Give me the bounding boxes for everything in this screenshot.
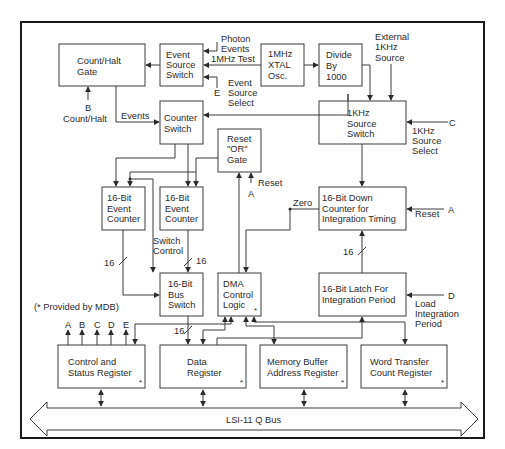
- counter-switch-block: Counter Switch: [160, 101, 203, 144]
- svg-text:Word Transfer: Word Transfer: [370, 357, 429, 367]
- svg-text:Switch: Switch: [166, 70, 193, 80]
- svg-text:Zero: Zero: [293, 198, 312, 208]
- svg-text:Osc.: Osc.: [268, 71, 287, 81]
- lsi-11-q-bus: LSI-11 Q Bus: [30, 402, 478, 436]
- svg-text:B: B: [79, 320, 85, 330]
- svg-text:Event: Event: [107, 204, 131, 214]
- control-status-register-block: Control and Status Register *: [58, 345, 145, 388]
- svg-text:Switch: Switch: [164, 124, 191, 134]
- data-register-block: Data Register *: [160, 345, 246, 388]
- svg-text:16: 16: [196, 256, 206, 266]
- svg-text:A: A: [248, 189, 255, 199]
- svg-text:LSI-11 Q Bus: LSI-11 Q Bus: [226, 415, 281, 425]
- svg-text:Integration Period: Integration Period: [322, 295, 395, 305]
- svg-text:Switch: Switch: [168, 300, 195, 310]
- svg-text:Data: Data: [187, 357, 207, 367]
- svg-text:External: External: [375, 32, 409, 42]
- svg-text:Counter: Counter: [107, 214, 140, 224]
- xtal-oscillator-block: 1MHz XTAL Osc.: [261, 44, 304, 86]
- svg-text:1KHz: 1KHz: [412, 126, 435, 136]
- bus-switch-block: 16-Bit Bus Switch: [160, 273, 203, 316]
- count-halt-gate-block: Count/Halt Gate: [59, 44, 145, 86]
- svg-text:16: 16: [104, 258, 114, 268]
- svg-text:Events: Events: [221, 44, 250, 54]
- event-source-switch-block: Event Source Switch: [160, 44, 203, 86]
- word-transfer-count-register-block: Word Transfer Count Register *: [361, 345, 447, 388]
- svg-text:Period: Period: [415, 319, 442, 329]
- svg-text:1KHz: 1KHz: [375, 42, 398, 52]
- svg-text:*: *: [441, 378, 444, 387]
- svg-text:Count/Halt: Count/Halt: [77, 56, 121, 66]
- svg-text:Select: Select: [228, 98, 254, 108]
- svg-text:E: E: [214, 88, 220, 98]
- event-counter-1-block: 16-Bit Event Counter: [102, 187, 145, 230]
- svg-text:Source: Source: [228, 88, 257, 98]
- svg-text:D: D: [448, 291, 455, 301]
- dma-control-logic-block: DMA Control Logic *: [218, 273, 261, 316]
- svg-text:Events: Events: [121, 111, 150, 121]
- svg-text:16-Bit Latch For: 16-Bit Latch For: [322, 284, 388, 294]
- svg-text:DMA: DMA: [223, 279, 244, 289]
- divide-by-1000-block: Divide By 1000: [319, 44, 362, 86]
- svg-text:Source: Source: [166, 60, 195, 70]
- svg-text:XTAL: XTAL: [268, 60, 291, 70]
- svg-text:Switch: Switch: [347, 129, 374, 139]
- mdb-footnote: (* Provided by MDB): [34, 302, 119, 312]
- svg-text:Count Register: Count Register: [370, 368, 432, 378]
- block-diagram: Count/Halt Gate Event Source Switch 1MHz…: [0, 0, 505, 449]
- svg-text:C: C: [94, 320, 101, 330]
- svg-text:Source: Source: [375, 53, 404, 63]
- 1khz-source-switch-block: 1KHz Source Switch: [319, 101, 406, 144]
- bus-connectors: [101, 390, 405, 406]
- svg-text:Counter for: Counter for: [322, 204, 369, 214]
- svg-text:Status Register: Status Register: [68, 368, 132, 378]
- svg-text:Event: Event: [228, 78, 252, 88]
- svg-text:1MHz Test: 1MHz Test: [211, 54, 255, 64]
- svg-text:Reset: Reset: [227, 134, 252, 144]
- svg-text:D: D: [108, 320, 115, 330]
- svg-text:Bus: Bus: [168, 290, 184, 300]
- svg-text:Control and: Control and: [68, 357, 116, 367]
- svg-text:Control: Control: [153, 246, 183, 256]
- svg-text:Logic: Logic: [223, 300, 246, 310]
- svg-text:*: *: [254, 306, 257, 315]
- svg-text:16-Bit: 16-Bit: [107, 193, 132, 203]
- svg-text:Divide: Divide: [326, 50, 352, 60]
- svg-text:Integration Timing: Integration Timing: [322, 214, 396, 224]
- svg-text:B: B: [85, 103, 91, 113]
- svg-text:Event: Event: [166, 50, 190, 60]
- svg-text:Control: Control: [223, 290, 253, 300]
- svg-text:16: 16: [343, 247, 353, 257]
- reset-or-gate-block: Reset "OR" Gate: [218, 129, 261, 172]
- svg-text:Counter: Counter: [165, 214, 198, 224]
- svg-text:Counter: Counter: [164, 113, 197, 123]
- svg-text:A: A: [448, 205, 455, 215]
- svg-text:16-Bit: 16-Bit: [168, 279, 193, 289]
- svg-text:E: E: [123, 320, 129, 330]
- svg-text:Reset: Reset: [258, 178, 283, 188]
- svg-text:Event: Event: [165, 204, 189, 214]
- svg-text:By: By: [326, 61, 337, 71]
- latch-block: 16-Bit Latch For Integration Period: [319, 273, 406, 316]
- svg-text:1KHz: 1KHz: [347, 108, 370, 118]
- svg-text:Source: Source: [412, 136, 441, 146]
- svg-text:1000: 1000: [326, 72, 347, 82]
- svg-text:Load: Load: [415, 299, 436, 309]
- svg-text:16-Bit: 16-Bit: [165, 193, 190, 203]
- svg-text:Select: Select: [412, 146, 438, 156]
- svg-text:16: 16: [174, 326, 184, 336]
- svg-text:Source: Source: [347, 119, 376, 129]
- svg-text:C: C: [449, 118, 456, 128]
- svg-text:Address Register: Address Register: [267, 368, 338, 378]
- svg-text:Count/Halt: Count/Halt: [63, 114, 107, 124]
- svg-text:A: A: [65, 320, 72, 330]
- svg-text:Gate: Gate: [227, 155, 247, 165]
- svg-text:*: *: [139, 378, 142, 387]
- svg-text:"OR": "OR": [227, 144, 248, 154]
- svg-text:Integration: Integration: [415, 309, 459, 319]
- svg-text:Reset: Reset: [415, 209, 440, 219]
- svg-text:Photon: Photon: [221, 34, 250, 44]
- svg-text:Memory Buffer: Memory Buffer: [267, 357, 328, 367]
- svg-text:16-Bit Down: 16-Bit Down: [322, 193, 373, 203]
- memory-buffer-address-register-block: Memory Buffer Address Register *: [260, 345, 347, 388]
